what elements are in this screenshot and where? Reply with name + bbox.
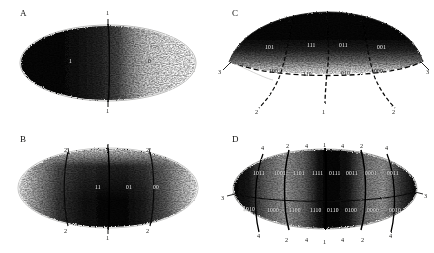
- panel-c-tick-top-2-left: 2: [288, 16, 291, 23]
- panel-c-tick-bottom-2-left: 2: [255, 108, 258, 115]
- panel-b: B: [0, 126, 217, 253]
- panel-a: A: [0, 0, 217, 126]
- panel-c-code-010: 010: [341, 70, 350, 76]
- panel-d-code-1111: 1111: [312, 170, 323, 176]
- panel-c-leader-3-left: [223, 62, 231, 70]
- panel-a-code-0: 0: [148, 58, 151, 64]
- panel-d-tick-bottom-2-right: 2: [361, 236, 364, 243]
- panel-d-tick-bottom-4-d: 4: [389, 232, 392, 239]
- panel-d-tick-bottom-2-left: 2: [285, 236, 288, 243]
- panel-d-code-1000: 1000: [267, 207, 279, 213]
- panel-d-tick-bottom-4-c: 4: [341, 236, 344, 243]
- panel-d-code-0011-a: 0011: [346, 170, 358, 176]
- panel-d-code-0100: 0100: [345, 207, 357, 213]
- panel-c: C: [217, 0, 434, 126]
- panel-c-tick-left-3: 3: [218, 68, 221, 75]
- panel-a-tick-top-1: 1: [106, 9, 109, 16]
- panel-b-tick-top-2-left: 2: [64, 146, 67, 153]
- panel-d-code-1011: 1011: [253, 170, 265, 176]
- panel-c-code-101: 101: [265, 44, 274, 50]
- panel-d-code-0111: 0111: [329, 170, 341, 176]
- panel-b-tick-top-2-right: 2: [146, 146, 149, 153]
- panel-d-tick-bottom-1: 1: [323, 238, 326, 245]
- panel-d-code-0110: 0110: [327, 207, 339, 213]
- panel-d-tick-top-4-b: 4: [305, 142, 308, 149]
- panel-b-tick-bottom-2-right: 2: [146, 227, 149, 234]
- panel-d-code-1110: 1110: [310, 207, 322, 213]
- panel-c-tick-bottom-1: 1: [322, 108, 325, 115]
- figure-canvas: A: [0, 0, 434, 253]
- panel-b-tick-bottom-2-left: 2: [64, 227, 67, 234]
- panel-b-tick-top-1: 1: [106, 143, 109, 150]
- panel-b-code-00: 00: [153, 184, 159, 190]
- panel-c-code-111: 111: [307, 42, 316, 48]
- panel-d-tick-top-2-left: 2: [286, 142, 289, 149]
- panel-d-tick-top-2-right: 2: [360, 142, 363, 149]
- panel-d-code-1010: 1010: [243, 206, 255, 212]
- panel-d-tick-top-4-a: 4: [261, 144, 264, 151]
- panel-d-tick-top-1: 1: [323, 141, 326, 148]
- panel-c-code-011: 011: [339, 42, 348, 48]
- panel-a-tick-bottom-1: 1: [106, 107, 109, 114]
- panel-d-tick-left-3: 3: [221, 194, 224, 201]
- panel-d: D: [217, 126, 434, 253]
- panel-c-tick-top-1: 1: [325, 14, 328, 21]
- panel-d-tick-bottom-4-a: 4: [257, 232, 260, 239]
- panel-b-code-11: 11: [95, 184, 101, 190]
- panel-c-tick-bottom-2-right: 2: [392, 108, 395, 115]
- panel-d-tick-right-3: 3: [424, 192, 427, 199]
- panel-d-code-1001: 1001: [274, 170, 286, 176]
- panel-d-code-1100: 1100: [289, 207, 301, 213]
- panel-c-code-110: 110: [303, 71, 312, 77]
- panel-b-tick-bottom-1: 1: [106, 234, 109, 241]
- panel-d-code-0000: 0000: [367, 207, 379, 213]
- panel-b-stipple: [19, 149, 197, 227]
- panel-c-code-000: 000: [374, 68, 383, 74]
- panel-c-code-100: 100: [269, 68, 278, 74]
- panel-c-code-001: 001: [377, 44, 386, 50]
- panel-d-tick-top-4-d: 4: [385, 144, 388, 151]
- panel-a-code-1: 1: [69, 58, 72, 64]
- panel-a-stipple: [21, 26, 195, 100]
- panel-c-tick-top-2-right: 2: [360, 16, 363, 23]
- panel-c-tick-right-3: 3: [426, 68, 429, 75]
- panel-d-code-0011-b: 0011: [387, 170, 399, 176]
- panel-d-tick-bottom-4-b: 4: [305, 236, 308, 243]
- panel-d-code-0010: 0010: [389, 207, 401, 213]
- panel-d-code-0001: 0001: [365, 170, 377, 176]
- panel-d-code-1101: 1101: [293, 170, 305, 176]
- panel-d-tick-top-4-c: 4: [341, 142, 344, 149]
- panel-b-code-01: 01: [126, 184, 132, 190]
